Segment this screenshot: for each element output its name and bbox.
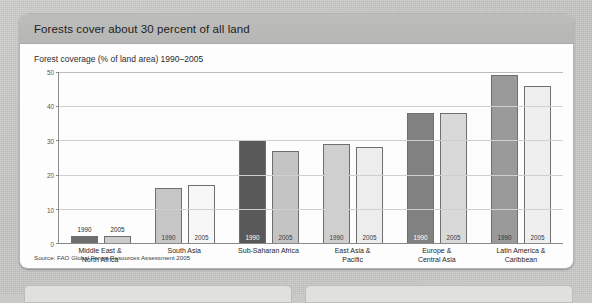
x-axis-category-label: Europe &Central Asia	[395, 246, 479, 265]
gridline	[59, 209, 563, 210]
category-line-1: Sub-Saharan Africa	[226, 246, 310, 255]
bar-1990[interactable]: 1990	[71, 236, 98, 243]
category-line-2: Caribbean	[479, 255, 563, 264]
bar-year-label: 2005	[441, 235, 466, 241]
bar-1990[interactable]: 1990	[407, 113, 434, 243]
bottom-panel-right	[305, 285, 573, 303]
y-axis-tickmark	[56, 209, 59, 210]
bar-group: 19902005	[227, 72, 311, 243]
bar-1990[interactable]: 1990	[323, 144, 350, 243]
bar-groups: 1990200519902005199020051990200519902005…	[59, 72, 563, 243]
y-axis-tick-label: 50	[47, 69, 54, 76]
y-axis-tick-label: 10	[47, 206, 54, 213]
y-axis-tickmark	[56, 243, 59, 244]
bar-1990[interactable]: 1990	[491, 75, 518, 243]
gridline	[59, 140, 563, 141]
bar-group: 19902005	[479, 72, 563, 243]
card-body: Forest coverage (% of land area) 1990–20…	[20, 44, 573, 267]
bar-year-label: 2005	[105, 227, 130, 233]
x-axis-category-label: East Asia &Pacific	[311, 246, 395, 265]
bar-group: 19902005	[59, 72, 143, 243]
bar-year-label: 1990	[324, 235, 349, 241]
y-axis-tickmark	[56, 140, 59, 141]
y-axis-tick-label: 40	[47, 103, 54, 110]
bar-year-label: 2005	[189, 235, 214, 241]
bar-2005[interactable]: 2005	[188, 185, 215, 243]
bar-2005[interactable]: 2005	[104, 236, 131, 243]
chart-subtitle: Forest coverage (% of land area) 1990–20…	[34, 54, 203, 64]
x-axis-category-label: Sub-Saharan Africa	[226, 246, 310, 265]
category-line-1: Latin America &	[479, 246, 563, 255]
bar-year-label: 1990	[240, 235, 265, 241]
card-header: Forests cover about 30 percent of all la…	[20, 14, 573, 44]
bar-group: 19902005	[395, 72, 479, 243]
bar-2005[interactable]: 2005	[524, 86, 551, 243]
category-line-2: Pacific	[311, 255, 395, 264]
y-axis-tickmark	[56, 106, 59, 107]
page-title: Forests cover about 30 percent of all la…	[34, 23, 250, 35]
bar-2005[interactable]: 2005	[440, 113, 467, 243]
bar-2005[interactable]: 2005	[356, 147, 383, 243]
gridline	[59, 175, 563, 176]
bar-year-label: 1990	[156, 235, 181, 241]
bar-group: 19902005	[311, 72, 395, 243]
bar-year-label: 2005	[273, 235, 298, 241]
plot-area: 50403020100 1990200519902005199020051990…	[34, 72, 563, 244]
chart-card: Forests cover about 30 percent of all la…	[19, 13, 574, 269]
bottom-strip	[0, 277, 592, 295]
gridline	[59, 106, 563, 107]
bar-year-label: 1990	[492, 235, 517, 241]
bar-group: 19902005	[143, 72, 227, 243]
y-axis-tickmark	[56, 72, 59, 73]
y-axis-tick-label: 20	[47, 172, 54, 179]
bar-1990[interactable]: 1990	[239, 140, 266, 243]
category-line-1: East Asia &	[311, 246, 395, 255]
bar-2005[interactable]: 2005	[272, 151, 299, 243]
plot-canvas: 1990200519902005199020051990200519902005…	[58, 72, 563, 244]
bar-year-label: 2005	[357, 235, 382, 241]
bar-year-label: 1990	[72, 227, 97, 233]
bottom-panel-left	[24, 285, 292, 303]
y-axis-tickmark	[56, 175, 59, 176]
category-line-2: Central Asia	[395, 255, 479, 264]
y-axis-tick-label: 30	[47, 137, 54, 144]
x-axis-category-label: Latin America &Caribbean	[479, 246, 563, 265]
bar-1990[interactable]: 1990	[155, 188, 182, 243]
gridline	[59, 72, 563, 73]
y-axis-tick-label: 0	[50, 241, 54, 248]
category-line-1: Europe &	[395, 246, 479, 255]
bar-year-label: 2005	[525, 235, 550, 241]
y-axis: 50403020100	[34, 72, 58, 244]
chart-source: Source: FAO Global Forest Resources Asse…	[34, 254, 190, 261]
bar-year-label: 1990	[408, 235, 433, 241]
